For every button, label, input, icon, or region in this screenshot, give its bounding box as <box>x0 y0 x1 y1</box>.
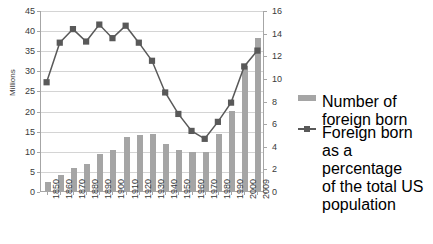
y-axis-tick-label-left: 10 <box>14 147 35 157</box>
y-axis-tick-right <box>264 79 267 80</box>
x-axis-tick <box>112 192 113 195</box>
y-axis-tick-right <box>264 124 267 125</box>
y-axis-tick-label-left: 15 <box>14 127 35 137</box>
y-axis-tick-right <box>264 34 267 35</box>
line-marker <box>57 40 63 46</box>
y-axis-tick-label-left: 45 <box>14 6 35 16</box>
y-axis-tick-left <box>37 192 40 193</box>
line-path <box>47 25 258 139</box>
y-axis-tick-right <box>264 102 267 103</box>
y-axis-tick-label-right: 10 <box>272 74 282 84</box>
y-axis-tick-label-left: 25 <box>14 86 35 96</box>
y-axis-tick-label-right: 16 <box>272 6 282 16</box>
y-axis-tick-label-right: 2 <box>272 164 277 174</box>
legend-bar-swatch <box>298 95 316 101</box>
line-marker <box>70 26 76 32</box>
line-marker <box>83 38 89 44</box>
line-series-layer <box>40 11 264 192</box>
y-axis-tick-label-left: 30 <box>14 66 35 76</box>
line-marker <box>241 63 247 69</box>
line-marker <box>123 23 129 29</box>
y-axis-tick-label-left: 20 <box>14 107 35 117</box>
y-axis-tick-label-left: 40 <box>14 26 35 36</box>
x-axis-tick <box>99 192 100 195</box>
x-axis-tick <box>257 192 258 195</box>
line-marker <box>96 21 102 27</box>
line-marker <box>175 111 181 117</box>
x-axis-tick <box>231 192 232 195</box>
x-axis-tick <box>218 192 219 195</box>
y-axis-tick-label-left: 35 <box>14 46 35 56</box>
line-marker <box>149 58 155 64</box>
legend-label: Foreign born as a percentage of the tota… <box>322 124 430 214</box>
x-axis-tick <box>178 192 179 195</box>
x-axis-tick <box>205 192 206 195</box>
line-marker <box>254 47 260 53</box>
y-axis-tick-right <box>264 11 267 12</box>
y-axis-tick-label-right: 8 <box>272 97 277 107</box>
y-axis-tick-label-left: 0 <box>14 187 35 197</box>
y-axis-tick-label-right: 14 <box>272 29 282 39</box>
y-axis-tick-right <box>264 169 267 170</box>
x-axis-tick <box>126 192 127 195</box>
y-axis-tick-right <box>264 56 267 57</box>
legend-item: Foreign born as a percentage of the tota… <box>298 124 430 214</box>
line-marker <box>215 119 221 125</box>
line-marker <box>188 128 194 134</box>
y-axis-tick-label-right: 4 <box>272 142 277 152</box>
x-axis-tick <box>86 192 87 195</box>
x-axis-tick <box>60 192 61 195</box>
line-marker <box>109 35 115 41</box>
y-axis-tick-label-right: 0 <box>272 187 277 197</box>
line-marker <box>136 40 142 46</box>
y-axis-tick-label-left: 5 <box>14 167 35 177</box>
line-marker <box>162 89 168 95</box>
line-marker <box>202 136 208 142</box>
chart-container: Millions 0510152025303540450246810121416… <box>0 0 433 244</box>
x-axis-tick <box>47 192 48 195</box>
x-axis-tick <box>73 192 74 195</box>
x-axis-tick <box>244 192 245 195</box>
y-axis-tick-label-right: 12 <box>272 51 282 61</box>
line-marker <box>228 100 234 106</box>
y-axis-tick-right <box>264 147 267 148</box>
legend-line-marker-swatch <box>298 124 316 133</box>
x-axis-tick <box>192 192 193 195</box>
y-axis-tick-label-right: 6 <box>272 119 277 129</box>
x-axis-tick <box>152 192 153 195</box>
x-axis-tick <box>139 192 140 195</box>
x-axis-tick <box>165 192 166 195</box>
line-marker <box>43 79 49 85</box>
